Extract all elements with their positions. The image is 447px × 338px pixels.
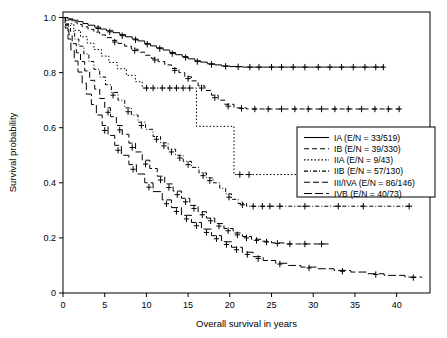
y-tick-label: 0 [51,288,56,298]
y-tick-label: 0.4 [43,178,56,188]
y-axis-title: Survival probability [7,112,18,192]
legend-label: IB (E/N = 39/330) [334,144,401,154]
kaplan-meier-plot: 051015202530354000.20.40.60.81.0Overall … [0,0,447,338]
legend-label: IIB (E/N = 57/130) [334,166,403,176]
x-tick-label: 10 [141,300,151,310]
legend-label: IVB (E/N = 40/73) [334,189,402,199]
legend-label: IIA (E/N = 9/43) [334,155,393,165]
x-tick-label: 25 [267,300,277,310]
x-tick-label: 20 [225,300,235,310]
y-tick-label: 0.2 [43,233,56,243]
x-axis-title: Overall survival in years [196,318,297,329]
y-tick-label: 0.6 [43,123,56,133]
x-tick-label: 30 [308,300,318,310]
x-tick-label: 15 [183,300,193,310]
x-tick-label: 5 [102,300,107,310]
x-tick-label: 0 [60,300,65,310]
y-tick-label: 0.8 [43,68,56,78]
survival-chart-figure: 051015202530354000.20.40.60.81.0Overall … [0,0,447,338]
x-tick-label: 40 [392,300,402,310]
legend-label: IA (E/N = 33/519) [334,133,400,143]
y-tick-label: 1.0 [43,13,56,23]
legend-label: III/IVA (E/N = 86/146) [334,178,415,188]
x-tick-label: 35 [350,300,360,310]
legend: IA (E/N = 33/519)IB (E/N = 39/330)IIA (E… [297,127,435,199]
